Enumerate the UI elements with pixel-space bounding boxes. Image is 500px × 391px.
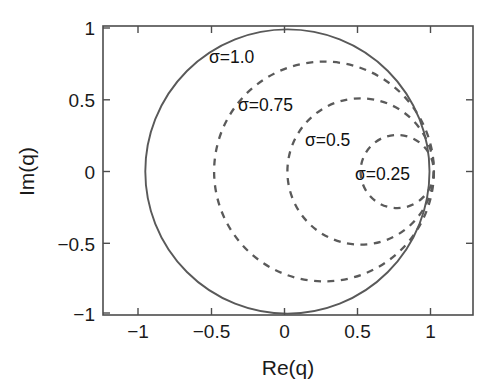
y-tick-label-0: 1: [84, 18, 95, 39]
stability-region-plot: −1 −0.5 0 0.5 1 1 0.5 0 −0.5 −1 Re(q) Im…: [0, 0, 500, 391]
x-tick-labels: −1 −0.5 0 0.5 1: [127, 321, 436, 342]
y-axis-title: Im(q): [15, 147, 38, 196]
series-label-sigma-05: σ=0.5: [305, 130, 350, 150]
y-tick-label-4: −1: [73, 304, 95, 325]
y-tick-labels: 1 0.5 0 −0.5 −1: [57, 18, 95, 325]
x-tick-label-1: −0.5: [193, 321, 231, 342]
y-tick-label-2: 0: [84, 162, 95, 183]
x-tick-label-3: 0.5: [344, 321, 370, 342]
series-label-sigma-075: σ=0.75: [238, 95, 293, 115]
x-tick-label-4: 1: [425, 321, 436, 342]
series-label-sigma-1: σ=1.0: [209, 47, 255, 67]
x-tick-label-0: −1: [127, 321, 149, 342]
x-tick-label-2: 0: [279, 321, 290, 342]
y-tick-label-1: 0.5: [69, 90, 95, 111]
x-axis-title: Re(q): [262, 356, 315, 379]
figure-container: −1 −0.5 0 0.5 1 1 0.5 0 −0.5 −1 Re(q) Im…: [0, 0, 500, 391]
series-label-sigma-025: σ=0.25: [355, 164, 410, 184]
y-tick-label-3: −0.5: [57, 234, 95, 255]
